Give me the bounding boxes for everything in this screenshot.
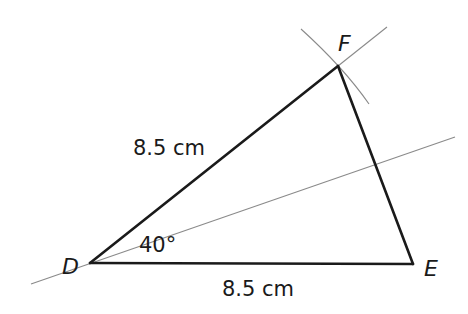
triangle-construction-diagram: D E F 8.5 cm 8.5 cm 40° [0, 0, 468, 314]
vertex-label-f: F [338, 31, 351, 56]
side-df [90, 66, 338, 263]
angle-d-label: 40° [139, 233, 176, 257]
side-de-length-label: 8.5 cm [222, 277, 294, 301]
compass-arc [301, 29, 369, 104]
side-df-length-label: 8.5 cm [133, 136, 205, 160]
vertex-label-e: E [424, 256, 438, 281]
side-fe [338, 66, 413, 264]
vertex-label-d: D [62, 254, 79, 279]
side-de [90, 263, 413, 264]
